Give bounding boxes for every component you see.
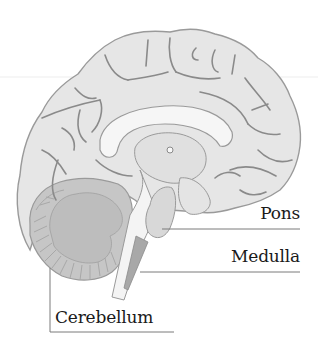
label-cerebellum: Cerebellum — [55, 309, 153, 326]
mass-intermedia — [167, 147, 173, 153]
label-medulla: Medulla — [231, 248, 300, 265]
brain-diagram: Pons Medulla Cerebellum — [0, 0, 318, 362]
brain-illustration — [0, 0, 318, 362]
label-pons: Pons — [260, 205, 300, 222]
